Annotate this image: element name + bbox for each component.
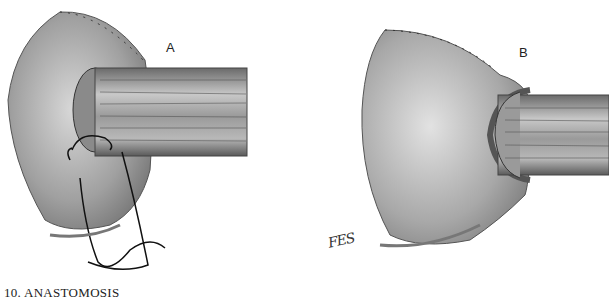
panel-a-drawing — [8, 12, 247, 269]
illustration-drawing — [0, 0, 609, 280]
panel-label-a: A — [166, 40, 175, 55]
surgical-illustration: A B FES — [0, 0, 609, 280]
panel-label-b: B — [519, 45, 528, 60]
panel-b-drawing — [362, 30, 609, 246]
figure-caption: 10. ANASTOMOSIS — [4, 285, 120, 301]
